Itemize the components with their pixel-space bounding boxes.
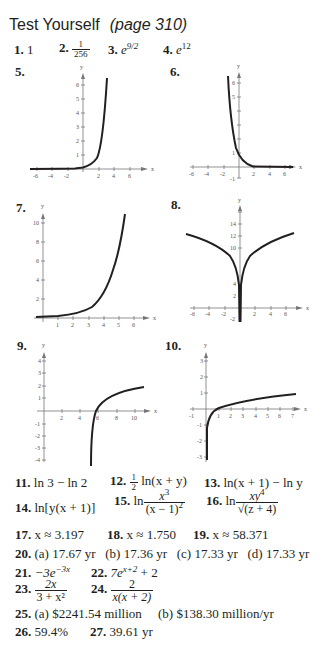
svg-text:6: 6 (278, 413, 281, 419)
svg-text:2: 2 (200, 374, 203, 380)
svg-text:y: y (204, 342, 207, 348)
answer-25: 25. (a) $2241.54 million (b) $138.30 mil… (15, 606, 274, 622)
svg-text:-2: -2 (197, 438, 202, 444)
svg-text:1: 1 (200, 390, 203, 396)
answer-16: 16. lnxy4√(z + 4) (206, 490, 278, 515)
answer-11: 11. ln 3 − ln 2 (15, 475, 87, 491)
answer-27: 27. 39.61 yr (90, 624, 153, 640)
answer-17: 17. x ≈ 3.197 (15, 527, 84, 543)
answer-20: 20. (a) 17.67 yr (b) 17.36 yr (c) 17.33 … (15, 546, 309, 562)
svg-text:x: x (304, 406, 307, 412)
svg-text:7: 7 (291, 413, 294, 419)
answer-26: 26. 59.4% (15, 624, 68, 640)
answer-15: 15. lnx3(x − 1)2 (114, 490, 185, 515)
svg-text:-1: -1 (189, 413, 194, 419)
svg-text:5: 5 (266, 413, 269, 419)
svg-text:4: 4 (254, 413, 257, 419)
svg-text:1: 1 (217, 413, 220, 419)
svg-text:2: 2 (229, 413, 232, 419)
answer-14: 14. ln[y(x + 1)] (15, 500, 95, 516)
svg-text:3: 3 (200, 358, 203, 364)
answer-24: 24. 2x(x + 2) (91, 578, 153, 603)
answer-23: 23. 2x3 + x² (15, 578, 67, 603)
answer-19: 19. x ≈ 58.371 (193, 527, 268, 543)
answer-18: 18. x ≈ 1.750 (107, 527, 176, 543)
svg-text:3: 3 (241, 413, 244, 419)
svg-text:-3: -3 (197, 454, 202, 460)
svg-text:-1: -1 (197, 422, 202, 428)
